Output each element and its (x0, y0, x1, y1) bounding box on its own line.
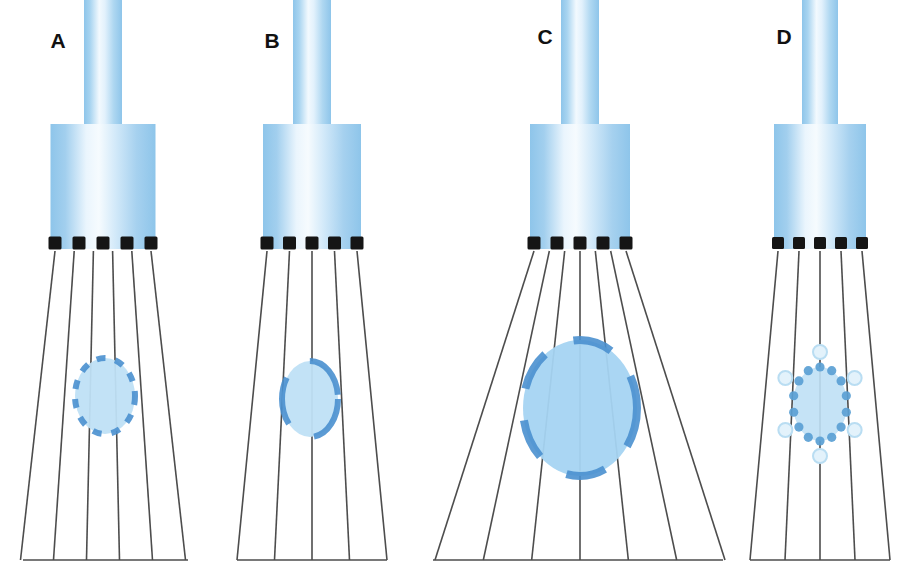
beam-line (151, 251, 186, 560)
transducer-barrel (51, 124, 156, 249)
panel-b-focal-zone (282, 361, 338, 437)
panel-a (21, 0, 189, 560)
focal-halo-dot (778, 423, 792, 437)
panel-label-c: C (537, 25, 552, 48)
transducer-stem (84, 0, 122, 124)
transducer-barrel (774, 124, 866, 249)
focal-ring-dot (842, 408, 851, 417)
panel-label-d: D (776, 25, 791, 48)
focal-halo-dot (778, 371, 792, 385)
panel-b (237, 0, 387, 560)
focal-ring-dot (789, 391, 798, 400)
array-element (97, 237, 110, 250)
focal-halo-dot (813, 449, 827, 463)
focal-ring-dot (827, 433, 836, 442)
array-element (574, 237, 587, 250)
beam-line (21, 251, 56, 560)
panel-labels-layer: ABCD (50, 25, 791, 52)
focal-halo-dot (848, 423, 862, 437)
beam-line (435, 251, 534, 560)
array-element (814, 237, 826, 249)
array-element (551, 237, 564, 250)
beam-line (237, 251, 267, 560)
panel-c (433, 0, 725, 560)
beam-line (750, 251, 778, 560)
beam-line (54, 251, 75, 560)
focal-ring-dot (837, 422, 846, 431)
array-element (283, 237, 296, 250)
focal-ring-dot (804, 366, 813, 375)
array-element (49, 237, 62, 250)
array-element (351, 237, 364, 250)
focal-ring-dot (837, 376, 846, 385)
array-element (793, 237, 805, 249)
focal-ring-dot (794, 422, 803, 431)
array-element (856, 237, 868, 249)
transducer-stem (293, 0, 331, 124)
array-element (121, 237, 134, 250)
transducer-barrel (263, 124, 361, 249)
panel-a-focal-zone (75, 358, 135, 434)
focal-ring-dot (815, 362, 824, 371)
array-element (597, 237, 610, 250)
array-element (145, 237, 158, 250)
focal-halo-dot (848, 371, 862, 385)
array-element (835, 237, 847, 249)
transducer-barrel (530, 124, 630, 249)
focal-ring-dot (842, 391, 851, 400)
panel-a-transducer (51, 0, 156, 249)
figure-root: ABCD (0, 0, 915, 565)
focal-ring-dot (794, 376, 803, 385)
panel-label-b: B (264, 29, 279, 52)
figure-canvas: ABCD (0, 0, 915, 565)
beam-line (862, 251, 890, 560)
beam-line (132, 251, 153, 560)
array-element (772, 237, 784, 249)
array-element (306, 237, 319, 250)
focal-ring-dot (804, 433, 813, 442)
array-element (73, 237, 86, 250)
array-element (528, 237, 541, 250)
panels-layer (21, 0, 891, 560)
panel-d (750, 0, 890, 560)
array-element (261, 237, 274, 250)
panel-c-focal-zone (523, 340, 637, 476)
beam-line (357, 251, 387, 560)
array-element (620, 237, 633, 250)
focal-ring-dot (789, 408, 798, 417)
focal-halo-dot (813, 345, 827, 359)
focal-ring-dot (815, 436, 824, 445)
transducer-stem (561, 0, 599, 124)
array-element (328, 237, 341, 250)
focal-ring-dot (827, 366, 836, 375)
panel-label-a: A (50, 29, 65, 52)
transducer-stem (802, 0, 838, 124)
